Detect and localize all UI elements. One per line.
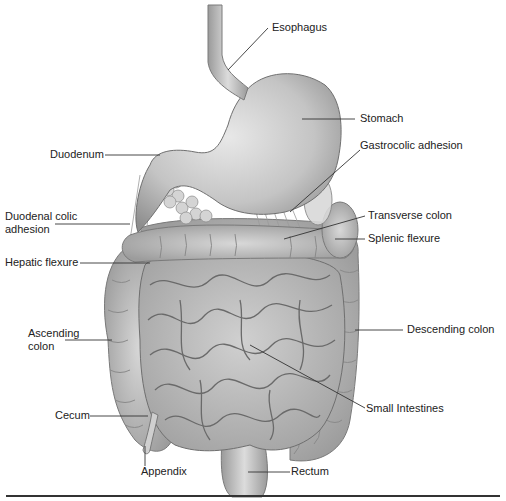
bottom-divider: [6, 495, 500, 497]
label-splenic-flexure: Splenic flexure: [368, 232, 440, 245]
label-rectum: Rectum: [291, 465, 329, 478]
label-duodenal-colic-adhesion: Duodenal colic adhesion: [5, 210, 77, 236]
label-esophagus: Esophagus: [272, 21, 327, 34]
label-small-intestines: Small Intestines: [366, 402, 444, 415]
label-stomach: Stomach: [360, 112, 403, 125]
label-duodenal-colic-line2: adhesion: [5, 223, 77, 236]
label-cecum: Cecum: [55, 409, 90, 422]
label-descending-colon: Descending colon: [407, 323, 494, 336]
digestive-system-diagram: Esophagus Stomach Duodenum Gastrocolic a…: [0, 0, 506, 501]
label-hepatic-flexure: Hepatic flexure: [5, 256, 78, 269]
label-appendix: Appendix: [141, 465, 187, 478]
anatomy-illustration: [0, 0, 506, 501]
label-gastrocolic-adhesion: Gastrocolic adhesion: [360, 139, 463, 152]
esophagus-shape: [208, 5, 248, 100]
label-duodenal-colic-line1: Duodenal colic: [5, 210, 77, 223]
small-intestines-shape: [139, 251, 345, 451]
label-duodenum: Duodenum: [50, 148, 104, 161]
label-ascending-line1: Ascending: [28, 327, 79, 340]
label-transverse-colon: Transverse colon: [368, 209, 452, 222]
label-ascending-line2: colon: [28, 340, 79, 353]
label-ascending-colon: Ascending colon: [28, 327, 79, 353]
